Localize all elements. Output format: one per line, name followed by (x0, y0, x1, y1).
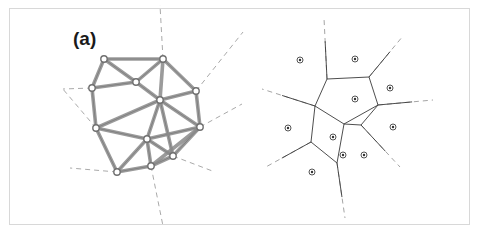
site-inner-dot (332, 136, 334, 138)
graph-edge-line (92, 59, 104, 88)
cell-edge-line (327, 77, 369, 79)
graph-edge-line (136, 82, 160, 100)
graph-node-marker (114, 169, 120, 175)
cell-edge-line (337, 163, 342, 197)
panel-b-rays (262, 18, 433, 218)
graph-edge-line (92, 82, 136, 88)
panel-b-sites (285, 56, 396, 175)
site-marker (330, 134, 336, 140)
cell-edge-line (325, 41, 327, 79)
graph-edge-line (136, 59, 163, 82)
panel-a-label: (a) (73, 28, 96, 50)
panel-a: (a) (0, 0, 250, 239)
cell-edge-line (369, 52, 390, 77)
site-inner-dot (299, 59, 301, 61)
graph-edge-line (163, 59, 196, 91)
cell-edge-line (361, 105, 378, 125)
graph-edge-line (196, 91, 200, 127)
site-marker (297, 57, 303, 63)
graph-edge-line (96, 128, 147, 139)
site-marker (340, 152, 346, 158)
cell-edge-line (315, 106, 344, 124)
cell-edge-line (361, 125, 385, 151)
panel-a-graph-edges (92, 59, 200, 172)
graph-node-marker (193, 88, 199, 94)
cell-edge-line (311, 106, 315, 142)
site-marker (361, 152, 367, 158)
site-marker (390, 124, 396, 130)
ray-line (173, 156, 215, 172)
cell-edge-line (344, 105, 378, 124)
ray-line (200, 104, 242, 127)
cell-edge-line (282, 142, 311, 158)
graph-edge-line (160, 91, 196, 100)
cell-edge-line (378, 102, 412, 105)
figure-container: (a) (b) (0, 0, 495, 239)
ray-line (70, 168, 117, 172)
graph-node-marker (93, 125, 99, 131)
site-inner-dot (363, 154, 365, 156)
panel-b-cell-edges (282, 41, 412, 197)
cell-edge-line (344, 124, 361, 125)
graph-node-marker (170, 153, 176, 159)
site-marker (285, 125, 291, 131)
graph-node-marker (157, 97, 163, 103)
ray-line (196, 32, 243, 91)
ray-line (160, 5, 163, 59)
site-inner-dot (392, 126, 394, 128)
graph-node-marker (148, 163, 154, 169)
site-inner-dot (354, 98, 356, 100)
graph-edge-line (104, 59, 136, 82)
graph-node-marker (197, 124, 203, 130)
cell-edge-line (311, 142, 337, 163)
graph-edge-line (160, 59, 163, 100)
site-inner-dot (342, 154, 344, 156)
graph-node-marker (89, 85, 95, 91)
site-marker (352, 56, 358, 62)
site-inner-dot (287, 127, 289, 129)
graph-edge-line (96, 128, 117, 172)
graph-node-marker (133, 79, 139, 85)
site-inner-dot (311, 171, 313, 173)
panel-a-graphic (0, 0, 250, 239)
panel-b-graphic (245, 0, 495, 239)
ray-line (63, 88, 92, 89)
site-marker (309, 169, 315, 175)
site-marker (352, 96, 358, 102)
ray-line (151, 166, 163, 226)
site-inner-dot (354, 58, 356, 60)
panel-b: (b) (245, 0, 495, 239)
cell-edge-line (282, 95, 315, 106)
graph-node-marker (160, 56, 166, 62)
site-inner-dot (389, 87, 391, 89)
graph-edge-line (92, 88, 96, 128)
site-marker (387, 85, 393, 91)
graph-node-marker (101, 56, 107, 62)
cell-edge-line (315, 79, 327, 106)
cell-edge-line (369, 77, 378, 105)
graph-node-marker (144, 136, 150, 142)
